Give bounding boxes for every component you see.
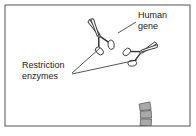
biology-diagram-figure: Human gene Restriction enzymes — [0, 0, 196, 136]
human-gene-label-line1: Human — [138, 10, 167, 20]
human-gene-label-line2: gene — [138, 21, 158, 31]
restriction-enzymes-label-line1: Restriction — [22, 60, 65, 70]
scissor-pivot — [97, 34, 100, 37]
diagram-canvas: Human gene Restriction enzymes — [0, 0, 196, 136]
dna-segment — [140, 110, 151, 118]
scissor-pivot — [140, 51, 143, 54]
restriction-enzymes-label-line2: enzymes — [22, 71, 59, 81]
